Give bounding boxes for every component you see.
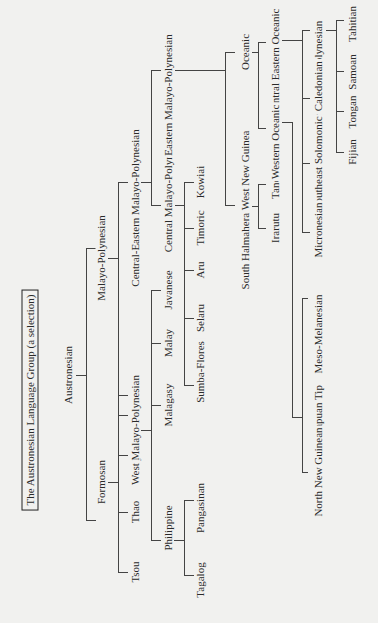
connector [118,572,128,573]
connector [282,40,302,41]
connector [184,182,185,386]
node-micronesian: Micronesian [313,201,324,260]
connector [184,500,194,501]
connector [184,228,194,229]
connector [302,163,310,164]
connector [302,298,308,299]
connector [184,270,194,271]
connector [151,405,161,406]
node-formosan: Formosan [96,458,107,506]
connector [336,152,344,153]
connector [86,520,96,521]
connector [118,455,128,456]
connector [184,182,194,183]
node-tsou: Tsou [130,559,141,584]
node-tongan: Tongan [347,94,358,131]
node-javanese: Javanese [163,268,174,311]
connector [336,20,337,153]
node-north-new-guinean: North New Guinean [313,425,324,518]
connector [225,52,235,53]
connector [302,30,310,31]
node-eastern-malayo-polynesian: Eastern Malayo-Polynesian [163,32,174,157]
node-west-malayo-polynesian: West Malayo-Polynesian [130,373,141,487]
connector [336,20,344,21]
connector [336,71,344,72]
connector [118,182,128,183]
node-samoan: Samoan [347,52,358,91]
connector [326,30,336,31]
connector [225,52,226,206]
node-south-halmahera-west-new-guinea: South Halmahera West New Guinea [240,129,251,292]
connector [282,122,292,123]
node-aru: Aru [195,259,206,280]
connector [118,512,128,513]
connector [108,482,118,483]
connector [258,128,266,129]
connector [302,98,310,99]
connector [292,417,302,418]
connector [175,205,184,206]
connector [118,182,119,416]
connector [302,232,310,233]
connector [258,42,266,43]
node-austronesian: Austronesian [63,344,74,406]
connector [175,70,225,71]
connector [292,122,293,418]
connector [118,395,128,396]
connector [151,290,161,291]
connector [151,70,161,71]
connector [258,184,266,185]
node-kowiai: Kowiai [195,164,206,200]
node-western-oceanic: Western Oceanic [270,103,281,182]
node-timoric: Timoric [195,208,206,247]
connector [118,395,119,573]
node-southeast-solomonic: Southeast Solomonic [313,114,324,211]
connector [151,290,152,540]
connector [184,575,194,576]
connector [184,385,194,386]
node-irarutu: Irarutu [270,211,281,245]
node-thao: Thao [130,499,141,526]
node-selaru: Selaru [195,302,206,334]
connector [302,30,303,233]
connector [151,205,161,206]
connector [141,430,151,431]
node-oceanic: Oceanic [240,32,251,72]
connector [151,70,152,206]
node-central-eastern-oceanic: Central Eastern Oceanic [270,7,281,118]
connector [258,228,266,229]
node-fijian: Fijian [347,137,358,167]
connector [258,184,259,229]
node-central-eastern-malayo-polynesian: Central-Eastern Malayo-Polynesian [130,127,141,288]
connector [108,258,118,259]
connector [118,415,128,416]
node-tagalog: Tagalog [195,560,206,599]
connector [184,318,194,319]
node-pangasinan: Pangasinan [195,481,206,535]
connector [184,500,185,576]
node-meso-melanesian: Meso-Melanesian [313,293,324,376]
node-malagasy: Malagasy [163,382,174,429]
connector [258,42,259,129]
connector [86,248,87,521]
diagram-title: The Austronesian Language Group (a selec… [22,289,39,510]
connector [302,472,308,473]
node-malay: Malay [163,327,174,359]
connector [174,540,184,541]
node-tahitian: Tahitian [347,4,358,44]
node-philippine: Philippine [163,503,174,552]
connector [151,343,161,344]
connector [336,111,344,112]
language-tree-diagram: The Austronesian Language Group (a selec… [0,0,378,623]
node-malayo-polynesian: Malayo-Polynesian [96,213,107,303]
node-sumba-flores: Sumba-Flores [195,339,206,405]
connector [151,540,161,541]
connector [76,375,86,376]
connector [141,182,151,183]
connector [225,205,235,206]
connector [302,298,303,473]
